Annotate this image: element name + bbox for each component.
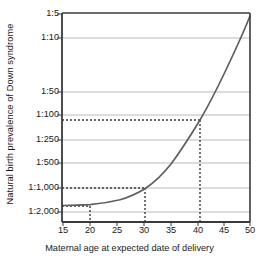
x-tick-label: 30: [139, 226, 149, 235]
x-axis-title: Maternal age at expected date of deliver…: [0, 243, 259, 253]
grid-lines: [62, 38, 250, 212]
x-tick-label: 45: [219, 226, 229, 235]
plot-area: [0, 0, 259, 262]
risk-curve: [63, 16, 250, 206]
chart-figure: Natural birth prevalence of Down syndrom…: [0, 0, 259, 262]
axis-frame: [62, 13, 250, 222]
x-tick-label: 35: [166, 226, 176, 235]
x-tick-label: 20: [85, 226, 95, 235]
x-tick-label: 25: [112, 226, 122, 235]
x-tick-label: 15: [58, 226, 68, 235]
reference-lines: [62, 120, 200, 222]
x-tick-label: 40: [193, 226, 203, 235]
x-tick-label: 50: [245, 226, 255, 235]
